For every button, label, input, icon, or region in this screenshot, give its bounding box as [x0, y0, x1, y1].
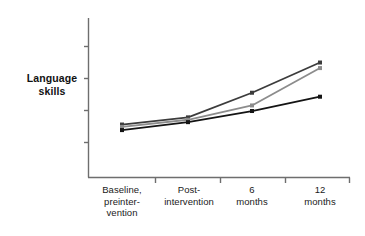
series-line-series-dark-gray	[122, 63, 320, 125]
x-tick-label-baseline: Baseline, preinter- vention	[86, 184, 158, 219]
series-line-series-medium-gray	[122, 68, 320, 127]
x-tick-label-6-months-line-1: 6	[220, 184, 284, 196]
data-point-series-black-3	[318, 95, 322, 99]
x-tick-label-post-intervention: Post- intervention	[153, 184, 225, 207]
x-axis-ticks	[156, 178, 350, 184]
data-point-series-medium-gray-3	[318, 66, 322, 70]
x-tick-label-baseline-line-1: Baseline,	[86, 184, 158, 196]
x-tick-label-6-months: 6 months	[220, 184, 284, 207]
data-point-series-dark-gray-2	[250, 91, 254, 95]
data-point-series-black-0	[120, 128, 124, 132]
data-series-layer	[120, 61, 322, 133]
x-tick-label-12-months-line-1: 12	[288, 184, 352, 196]
x-tick-label-post-intervention-line-1: Post-	[153, 184, 225, 196]
x-tick-label-12-months-line-2: months	[288, 196, 352, 208]
data-point-series-black-2	[250, 109, 254, 113]
data-point-series-dark-gray-3	[318, 61, 322, 65]
x-tick-label-post-intervention-line-2: intervention	[153, 196, 225, 208]
language-skills-line-chart: Language skills Baseline, preinter- vent…	[0, 0, 365, 236]
x-tick-label-12-months: 12 months	[288, 184, 352, 207]
series-line-series-black	[122, 97, 320, 130]
x-tick-label-baseline-line-2: preinter-	[86, 196, 158, 208]
x-tick-label-6-months-line-2: months	[220, 196, 284, 208]
x-tick-label-baseline-line-3: vention	[86, 207, 158, 219]
data-point-series-medium-gray-2	[250, 103, 254, 107]
data-point-series-black-1	[186, 120, 190, 124]
